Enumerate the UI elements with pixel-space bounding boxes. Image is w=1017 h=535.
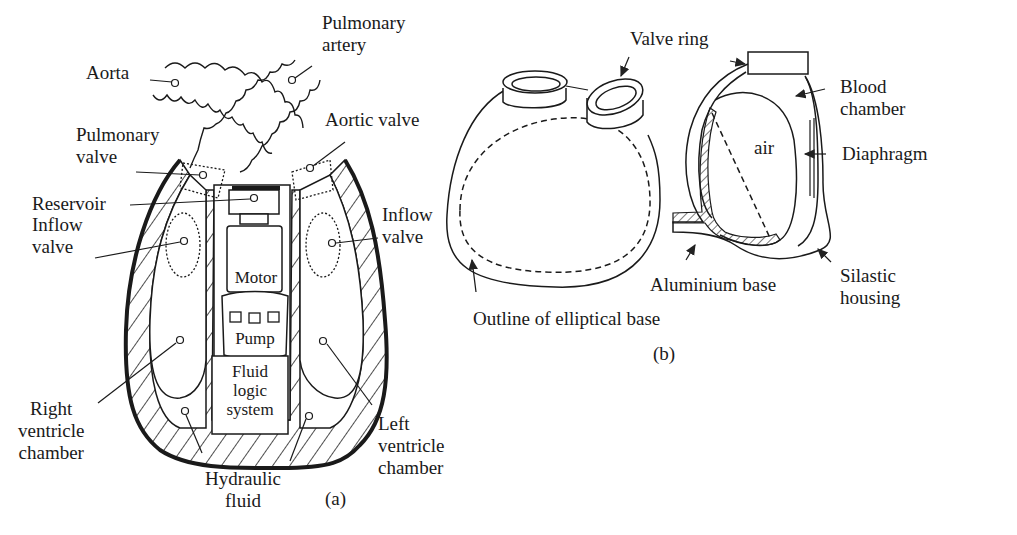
label-hydraulic-fluid: Hydraulic fluid (205, 468, 281, 512)
caption-b: (b) (653, 343, 675, 365)
figure-b-perspective (447, 57, 660, 292)
label-diaphragm: Diaphragm (842, 143, 927, 165)
label-fluid-logic-system: Fluid logic system (212, 362, 288, 419)
label-pulmonary-artery: Pulmonary artery (322, 12, 405, 56)
label-right-ventricle-chamber: Right ventricle chamber (18, 398, 84, 464)
label-inflow-valve-left-heart: Inflow valve (382, 204, 433, 248)
label-reservoir: Reservoir (32, 193, 106, 215)
label-aorta: Aorta (86, 62, 129, 84)
label-motor: Motor (229, 268, 283, 287)
label-aortic-valve: Aortic valve (325, 109, 419, 131)
label-inflow-valve-right-heart: Inflow valve (32, 214, 83, 258)
label-air: air (754, 137, 774, 159)
label-pulmonary-valve: Pulmonary valve (76, 124, 159, 168)
label-valve-ring: Valve ring (630, 28, 709, 50)
label-pump: Pump (224, 329, 286, 348)
caption-a: (a) (325, 488, 346, 510)
label-silastic-housing: Silastic housing (840, 265, 900, 309)
label-outline-elliptical-base: Outline of elliptical base (473, 308, 660, 330)
label-blood-chamber: Blood chamber (840, 76, 905, 120)
label-aluminium-base: Aluminium base (650, 274, 776, 296)
label-left-ventricle-chamber: Left ventricle chamber (378, 413, 444, 479)
figure-b-section (673, 52, 831, 262)
